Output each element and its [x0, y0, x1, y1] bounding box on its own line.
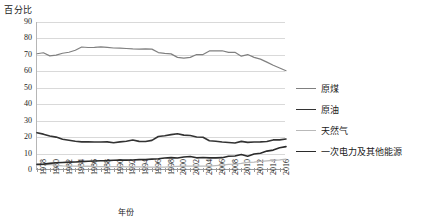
legend-label: 原煤: [321, 82, 339, 95]
energy-structure-line-chart: 百分比 年份 0102030405060708090 1978198019821…: [0, 0, 426, 222]
series-lines: [37, 22, 286, 170]
series-line: [37, 133, 286, 143]
x-axis-title: 年份: [118, 206, 134, 217]
series-line: [37, 147, 286, 165]
legend-line-icon: [296, 109, 316, 110]
legend-item[interactable]: 一次电力及其他能源: [296, 141, 402, 162]
legend-line-icon: [296, 130, 316, 131]
y-tick-label: 60: [2, 67, 32, 75]
y-tick-label: 50: [2, 84, 32, 92]
legend-item[interactable]: 天然气: [296, 120, 402, 141]
legend-label: 一次电力及其他能源: [321, 145, 402, 158]
legend-line-icon: [296, 151, 316, 152]
legend-item[interactable]: 原油: [296, 99, 402, 120]
y-tick-label: 80: [2, 34, 32, 42]
series-line: [37, 159, 286, 167]
y-axis-title: 百分比: [4, 3, 33, 16]
legend-item[interactable]: 原煤: [296, 78, 402, 99]
legend-label: 原油: [321, 103, 339, 116]
y-tick-label: 20: [2, 133, 32, 141]
y-tick-label: 0: [2, 166, 32, 174]
y-tick-label: 40: [2, 100, 32, 108]
y-tick-label: 30: [2, 117, 32, 125]
legend-label: 天然气: [321, 124, 348, 137]
plot-area: 0102030405060708090 19781980198219841986…: [36, 22, 285, 170]
y-tick-label: 70: [2, 51, 32, 59]
series-line: [37, 47, 286, 71]
y-tick-label: 10: [2, 150, 32, 158]
y-tick-label: 90: [2, 18, 32, 26]
legend: 原煤原油天然气一次电力及其他能源: [296, 78, 402, 162]
legend-line-icon: [296, 88, 316, 89]
